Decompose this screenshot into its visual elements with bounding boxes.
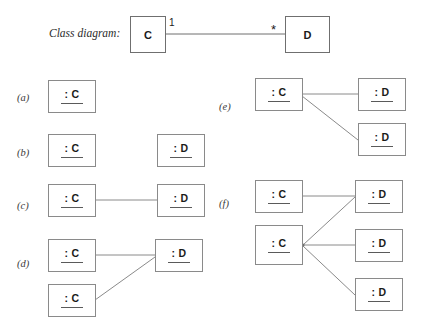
class-name-d: D [303, 29, 311, 41]
class-box-c: C [130, 16, 166, 53]
object-underline [368, 252, 390, 253]
class-box-d: D [285, 16, 330, 53]
object-underline [371, 101, 393, 102]
link-f-c2-d1 [303, 197, 355, 245]
object-name-d: : D [372, 189, 387, 200]
figure-caption: Class diagram: [49, 27, 120, 39]
object-name-d: : D [372, 238, 387, 249]
object-underline [268, 101, 290, 102]
object-box-c: : C [48, 284, 96, 317]
object-box-d: : D [355, 229, 403, 262]
multiplicity-source: 1 [169, 17, 175, 28]
object-underline [371, 146, 393, 147]
object-name-d: : D [174, 143, 189, 154]
object-box-c: : C [255, 180, 303, 213]
object-box-d: : D [358, 123, 406, 156]
object-name-c: : C [272, 87, 287, 98]
class-name-c: C [144, 29, 152, 41]
object-name-d: : D [174, 193, 189, 204]
object-name-c: : C [65, 193, 80, 204]
multiplicity-target: * [271, 26, 276, 34]
figure-canvas: Class diagram: C 1 * D (a) : C (b) : C :… [0, 0, 428, 334]
link-f-c2-d3 [303, 246, 355, 295]
object-box-d: : D [157, 134, 205, 167]
object-box-d: : D [355, 278, 403, 311]
option-label-e: (e) [219, 101, 231, 112]
object-underline [168, 262, 190, 263]
object-box-d: : D [355, 180, 403, 213]
object-box-d: : D [358, 78, 406, 111]
object-underline [268, 203, 290, 204]
object-box-d: : D [155, 239, 203, 272]
option-label-f: (f) [219, 198, 229, 209]
object-name-c: : C [272, 238, 287, 249]
object-underline [368, 203, 390, 204]
object-box-d: : D [157, 184, 205, 217]
object-underline [61, 307, 83, 308]
object-name-d: : D [172, 248, 187, 259]
object-box-c: : C [48, 239, 96, 272]
object-box-c: : C [48, 184, 96, 217]
object-underline [170, 157, 192, 158]
object-underline [61, 262, 83, 263]
option-label-d: (d) [17, 258, 29, 269]
object-box-c: : C [48, 80, 96, 113]
object-underline [368, 301, 390, 302]
object-name-c: : C [65, 293, 80, 304]
object-name-c: : C [65, 89, 80, 100]
object-underline [61, 157, 83, 158]
object-name-d: : D [375, 132, 390, 143]
object-box-c: : C [48, 134, 96, 167]
link-e-bottom [302, 96, 358, 140]
object-underline [268, 252, 290, 253]
object-name-c: : C [65, 248, 80, 259]
option-label-a: (a) [17, 92, 29, 103]
object-name-c: : C [272, 189, 287, 200]
option-label-c: (c) [17, 200, 29, 211]
object-underline [61, 207, 83, 208]
object-name-d: : D [372, 287, 387, 298]
option-label-b: (b) [17, 147, 29, 158]
link-d-bottom [95, 257, 155, 300]
object-name-c: : C [65, 143, 80, 154]
object-box-c: : C [255, 225, 303, 265]
object-underline [170, 207, 192, 208]
object-name-d: : D [375, 87, 390, 98]
object-box-c: : C [255, 78, 303, 111]
object-underline [61, 103, 83, 104]
